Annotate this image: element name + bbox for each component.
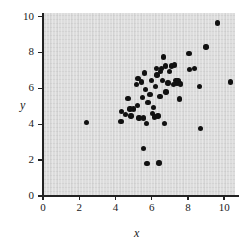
y-tick-label: 6 [12, 81, 34, 93]
y-tick-mark [38, 88, 42, 89]
data-point [118, 119, 123, 124]
x-tick-mark [115, 196, 116, 200]
y-tick-label: 2 [12, 153, 34, 165]
data-point [162, 121, 167, 126]
data-point [153, 84, 158, 89]
data-point [149, 78, 154, 83]
y-tick-label: 8 [12, 45, 34, 57]
data-point [140, 95, 145, 100]
data-point [203, 44, 208, 49]
x-axis-line [42, 195, 239, 197]
x-tick-label: 2 [68, 201, 90, 213]
y-tick-label: 10 [12, 10, 34, 22]
plot-area [43, 13, 235, 196]
data-point [167, 69, 172, 74]
x-tick-label: 8 [177, 201, 199, 213]
data-point [141, 146, 146, 151]
data-point [172, 62, 177, 67]
x-tick-mark [223, 196, 224, 200]
data-point [125, 96, 130, 101]
y-axis-label: y [20, 98, 25, 113]
data-point [192, 66, 197, 71]
data-point [151, 105, 156, 110]
y-tick-mark [38, 52, 42, 53]
data-point [163, 89, 168, 94]
data-point [197, 84, 202, 89]
x-tick-label: 4 [104, 201, 126, 213]
data-point [139, 79, 144, 84]
y-tick-mark [38, 124, 42, 125]
data-point [156, 160, 161, 165]
data-point [228, 79, 233, 84]
scatter-plot-figure: 0246810 0246810 y x [0, 0, 248, 247]
x-tick-mark [151, 196, 152, 200]
x-tick-mark [42, 196, 43, 200]
data-point [84, 120, 89, 125]
data-point [141, 115, 146, 120]
data-point [178, 81, 183, 86]
x-tick-label: 6 [141, 201, 163, 213]
data-point [198, 126, 203, 131]
data-point [142, 70, 147, 75]
y-tick-label: 0 [12, 189, 34, 201]
data-point [145, 100, 150, 105]
x-tick-label: 10 [213, 201, 235, 213]
x-axis-label: x [134, 226, 139, 241]
data-point [157, 94, 162, 99]
data-point [144, 121, 149, 126]
y-tick-mark [38, 16, 42, 17]
x-tick-mark [79, 196, 80, 200]
data-point [161, 54, 166, 59]
data-point [186, 51, 191, 56]
x-tick-label: 0 [32, 201, 54, 213]
data-point [135, 103, 140, 108]
data-point [163, 63, 168, 68]
data-point [155, 113, 160, 118]
data-point [215, 20, 220, 25]
data-point [144, 161, 149, 166]
y-tick-mark [38, 159, 42, 160]
y-tick-label: 4 [12, 117, 34, 129]
data-point [128, 113, 133, 118]
data-point [147, 92, 152, 97]
data-point [165, 80, 170, 85]
x-tick-mark [187, 196, 188, 200]
y-axis-line [42, 13, 44, 197]
data-point [177, 96, 182, 101]
data-point [143, 87, 148, 92]
